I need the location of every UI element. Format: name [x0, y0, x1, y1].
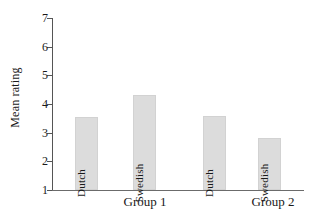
- y-axis-title-text: Mean rating: [8, 67, 23, 128]
- group-label-2: Group 2: [252, 194, 295, 210]
- bar-label-text: Dutch: [75, 169, 87, 197]
- group-label-1: Group 1: [124, 194, 167, 210]
- y-tick-label: 4: [42, 98, 48, 110]
- bar-label: Dutch: [203, 169, 215, 197]
- y-tick-label: 3: [42, 127, 48, 139]
- bar: Dutch: [203, 116, 226, 190]
- y-axis-title: Mean rating: [4, 0, 26, 195]
- y-tick-label: 6: [42, 41, 48, 53]
- bar-label: Dutch: [75, 169, 87, 197]
- bar: Swedish: [258, 138, 281, 190]
- plot-area: 1234567 DutchSwedishDutchSwedish: [52, 18, 304, 190]
- y-axis-line: [52, 18, 53, 190]
- y-tick-label: 7: [42, 12, 48, 24]
- bar: Swedish: [133, 95, 156, 190]
- y-tick-label: 2: [42, 155, 48, 167]
- bar: Dutch: [75, 117, 98, 190]
- chart-figure: Mean rating 1234567 DutchSwedishDutchSwe…: [0, 0, 315, 218]
- y-tick-label: 5: [42, 69, 48, 81]
- bar-label-text: Dutch: [203, 169, 215, 197]
- y-tick-label: 1: [42, 184, 48, 196]
